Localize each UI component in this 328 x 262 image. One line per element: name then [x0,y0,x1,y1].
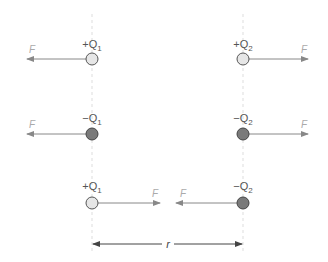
force-label-left: F [152,188,159,199]
negative-charge-q2 [237,128,249,140]
charge-label-right: −Q2 [233,180,253,195]
positive-charge-q1 [86,53,98,65]
charge-label-left: +Q1 [82,180,102,195]
positive-charge-q1 [86,197,98,209]
negative-charge-q2 [237,197,249,209]
row-3-positive-negative: +Q1 −Q2 F F [82,180,253,209]
coulomb-diagram: +Q1 +Q2 F F −Q1 −Q2 F F +Q1 −Q2 F F r [0,0,328,262]
force-label-right: F [301,44,308,55]
row-1-positive-positive: +Q1 +Q2 F F [27,38,308,65]
row-2-negative-negative: −Q1 −Q2 F F [27,112,308,140]
force-label-right: F [180,188,187,199]
distance-indicator: r [93,238,242,250]
distance-label: r [166,238,171,250]
force-label-left: F [29,44,36,55]
positive-charge-q2 [237,53,249,65]
force-label-right: F [301,119,308,130]
force-label-left: F [29,119,36,130]
negative-charge-q1 [86,128,98,140]
